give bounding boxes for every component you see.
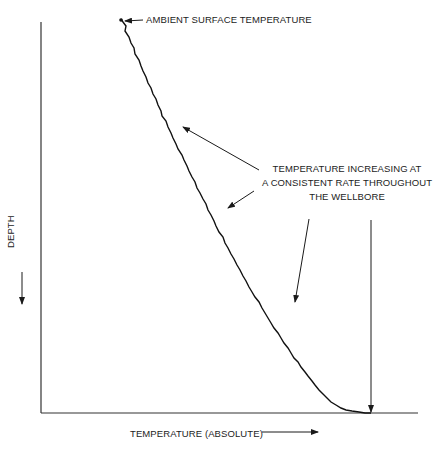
gradient-arrow-3: [295, 219, 309, 302]
gradient-arrow-2: [228, 191, 254, 208]
gradient-arrow-1: [183, 127, 259, 170]
y-axis-label: DEPTH: [5, 215, 16, 248]
ambient-arrow: [125, 20, 143, 21]
gradient-annotation: TEMPERATURE INCREASING AT A CONSISTENT R…: [262, 162, 432, 204]
gradient-annotation-line-2: A CONSISTENT RATE THROUGHOUT: [262, 176, 432, 190]
temperature-depth-diagram: [0, 0, 442, 454]
gradient-annotation-line-1: TEMPERATURE INCREASING AT: [262, 162, 432, 176]
x-axis-label: TEMPERATURE (ABSOLUTE): [130, 428, 263, 439]
ambient-surface-temperature-label: AMBIENT SURFACE TEMPERATURE: [146, 14, 312, 25]
surface-point-marker: [119, 18, 123, 22]
gradient-annotation-line-3: THE WELLBORE: [262, 190, 432, 204]
temperature-curve: [121, 19, 371, 413]
